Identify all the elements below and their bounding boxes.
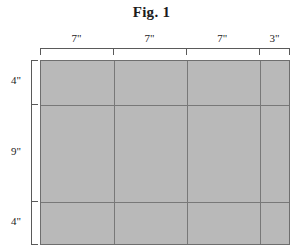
top-dimension-label: 7"	[56, 32, 96, 44]
top-dimension-label: 3"	[254, 32, 294, 44]
left-dimension-label: 9"	[5, 145, 27, 157]
top-dimension-label: 7"	[202, 32, 242, 44]
grid-horizontal-line	[41, 105, 289, 106]
top-dimension-bracket	[40, 48, 290, 58]
top-dimension-label: 7"	[129, 32, 169, 44]
top-dimension-tick	[259, 48, 260, 55]
grid-vertical-line	[114, 61, 115, 244]
figure-title: Fig. 1	[0, 4, 303, 21]
top-dimension-tick	[186, 48, 187, 55]
left-dimension-tick	[31, 201, 38, 202]
left-dimension-tick	[31, 244, 38, 245]
top-dimension-tick	[40, 48, 41, 55]
top-dimension-tick	[113, 48, 114, 55]
grid-rectangle	[40, 60, 290, 245]
top-dimension-tick	[289, 48, 290, 55]
figure-container: Fig. 1 7"7"7"3"4"9"4"	[0, 0, 303, 252]
left-dimension-label: 4"	[5, 215, 27, 227]
left-dimension-tick	[31, 60, 38, 61]
grid-horizontal-line	[41, 202, 289, 203]
top-dimension-rule	[40, 48, 290, 49]
grid-vertical-line	[187, 61, 188, 244]
left-dimension-rule	[31, 60, 32, 245]
left-dimension-label: 4"	[5, 74, 27, 86]
grid-vertical-line	[260, 61, 261, 244]
left-dimension-tick	[31, 104, 38, 105]
